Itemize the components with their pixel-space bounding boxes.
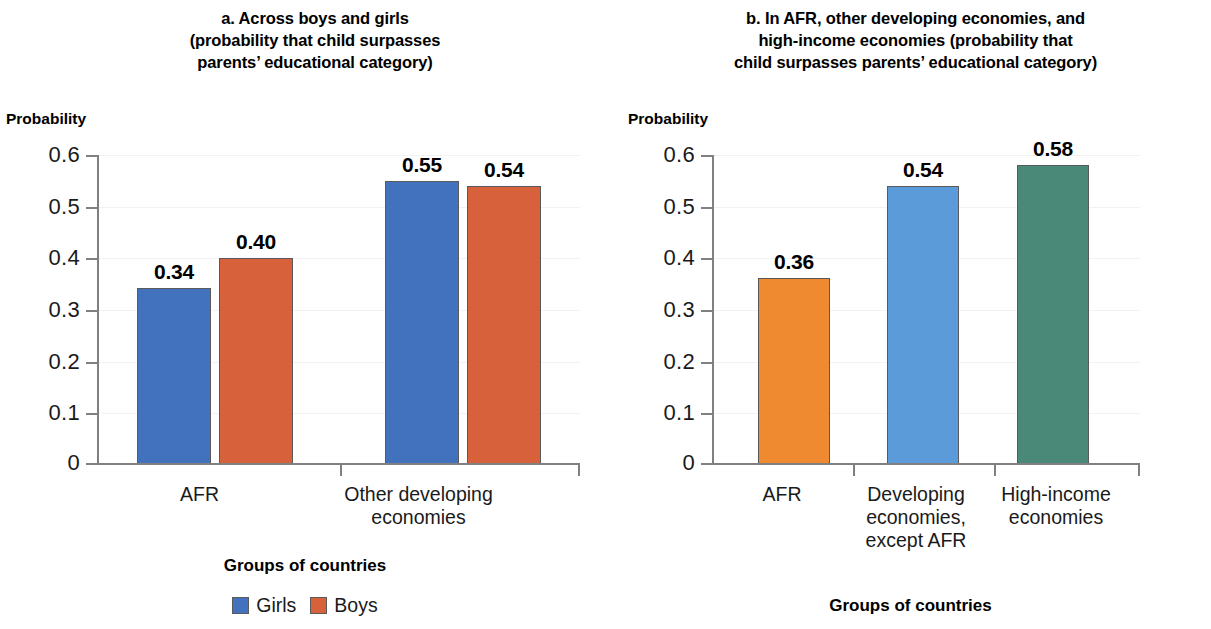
legend-item-girls[interactable]: Girls xyxy=(232,596,296,616)
panel-b-x-tick-end xyxy=(1138,465,1140,476)
y-tick-label-b-0.5: 0.5 xyxy=(664,194,695,220)
y-tick-b-0: 0 xyxy=(701,463,712,465)
panel-b-x-axis-caption: Groups of countries xyxy=(610,596,1211,616)
y-tick-b-0.5: 0.5 xyxy=(701,207,712,209)
panel-b-x-tick-1 xyxy=(853,465,855,476)
cat-b-1-line-2: except AFR xyxy=(836,529,996,552)
panel-b-title: b. In AFR, other developing economies, a… xyxy=(610,8,1211,74)
y-tick-b-0.6: 0.6 xyxy=(701,155,712,157)
legend-label-girls: Girls xyxy=(256,596,296,616)
panel-a-y-axis-caption: Probability xyxy=(6,110,86,128)
bar-value-afr: 0.36 xyxy=(774,250,814,274)
cat-b-2-line-1: economies xyxy=(968,506,1144,529)
figure-root: a. Across boys and girls (probability th… xyxy=(0,0,1211,629)
bar-high-income[interactable]: 0.58 xyxy=(1017,165,1089,463)
panel-b-title-line-3: child surpasses parents’ educational cat… xyxy=(660,52,1171,74)
gridline-0.6 xyxy=(99,155,580,156)
panel-a-plot-area: 0.6 0.5 0.4 0.3 0.2 0.1 0 xyxy=(97,155,580,465)
panel-a-category-label-afr: AFR xyxy=(122,483,277,506)
y-tick-label-0.4: 0.4 xyxy=(49,245,80,271)
panel-a-title: a. Across boys and girls (probability th… xyxy=(0,8,610,74)
y-tick-label-0.6: 0.6 xyxy=(49,142,80,168)
cat-a-1-line-0: Other developing xyxy=(296,483,541,506)
y-tick-label-b-0.4: 0.4 xyxy=(664,245,695,271)
panel-b-x-axis-line xyxy=(712,463,1140,465)
bar-value-other-developing-girls: 0.55 xyxy=(402,153,442,177)
panel-a-title-line-1: a. Across boys and girls xyxy=(110,8,520,30)
legend-item-boys[interactable]: Boys xyxy=(310,596,377,616)
y-tick-label-b-0: 0 xyxy=(682,450,695,476)
y-tick-label-0.5: 0.5 xyxy=(49,194,80,220)
panel-a-x-axis-caption: Groups of countries xyxy=(0,556,610,576)
y-tick-0: 0 xyxy=(86,463,97,465)
panel-a-title-line-3: parents’ educational category) xyxy=(110,52,520,74)
bar-other-developing-girls[interactable]: 0.55 xyxy=(385,181,459,463)
y-tick-b-0.3: 0.3 xyxy=(701,310,712,312)
panel-a-y-axis-line xyxy=(97,155,99,465)
y-tick-0.3: 0.3 xyxy=(86,310,97,312)
bar-value-developing-except-afr: 0.54 xyxy=(903,158,943,182)
panel-a: a. Across boys and girls (probability th… xyxy=(0,0,610,629)
y-tick-0.1: 0.1 xyxy=(86,413,97,415)
y-tick-0.6: 0.6 xyxy=(86,155,97,157)
y-tick-label-0: 0 xyxy=(67,450,80,476)
y-tick-b-0.2: 0.2 xyxy=(701,362,712,364)
y-tick-label-0.3: 0.3 xyxy=(49,297,80,323)
panel-b-plot-area: 0.6 0.5 0.4 0.3 0.2 0.1 0 0.36 0.54 0.5 xyxy=(712,155,1140,465)
cat-a-0-line-0: AFR xyxy=(122,483,277,506)
panel-a-legend: Girls Boys xyxy=(0,596,610,616)
panel-a-x-tick-separator xyxy=(340,465,342,476)
bar-afr[interactable]: 0.36 xyxy=(758,278,830,463)
cat-a-1-line-1: economies xyxy=(296,506,541,529)
legend-label-boys: Boys xyxy=(334,596,377,616)
bar-value-afr-girls: 0.34 xyxy=(154,260,194,284)
cat-b-2-line-0: High-income xyxy=(968,483,1144,506)
y-tick-label-b-0.2: 0.2 xyxy=(664,349,695,375)
y-tick-0.2: 0.2 xyxy=(86,362,97,364)
y-tick-0.5: 0.5 xyxy=(86,207,97,209)
gridline-b-0.6 xyxy=(714,155,1140,156)
bar-value-other-developing-boys: 0.54 xyxy=(484,158,524,182)
panel-a-category-label-other-developing: Other developing economies xyxy=(296,483,541,529)
panel-b-title-line-1: b. In AFR, other developing economies, a… xyxy=(660,8,1171,30)
y-tick-b-0.1: 0.1 xyxy=(701,413,712,415)
panel-b-y-axis-caption: Probability xyxy=(628,110,708,128)
panel-b-y-axis-line xyxy=(712,155,714,465)
y-tick-label-0.1: 0.1 xyxy=(49,400,80,426)
y-tick-label-b-0.3: 0.3 xyxy=(664,297,695,323)
panel-b-title-line-2: high-income economies (probability that xyxy=(660,30,1171,52)
y-tick-b-0.4: 0.4 xyxy=(701,258,712,260)
y-tick-0.4: 0.4 xyxy=(86,258,97,260)
y-tick-label-b-0.6: 0.6 xyxy=(664,142,695,168)
bar-value-afr-boys: 0.40 xyxy=(236,230,276,254)
legend-swatch-girls-icon xyxy=(232,597,249,614)
panel-a-x-tick-end xyxy=(578,465,580,476)
bar-other-developing-boys[interactable]: 0.54 xyxy=(467,186,541,463)
legend-swatch-boys-icon xyxy=(310,597,327,614)
bar-developing-except-afr[interactable]: 0.54 xyxy=(887,186,959,463)
bar-afr-boys[interactable]: 0.40 xyxy=(219,258,293,463)
y-tick-label-b-0.1: 0.1 xyxy=(664,400,695,426)
panel-a-x-axis-line xyxy=(97,463,580,465)
bar-afr-girls[interactable]: 0.34 xyxy=(137,288,211,463)
y-tick-label-0.2: 0.2 xyxy=(49,349,80,375)
panel-b-x-tick-2 xyxy=(994,465,996,476)
bar-value-high-income: 0.58 xyxy=(1033,137,1073,161)
panel-b-category-label-high-income: High-income economies xyxy=(968,483,1144,529)
panel-a-title-line-2: (probability that child surpasses xyxy=(110,30,520,52)
